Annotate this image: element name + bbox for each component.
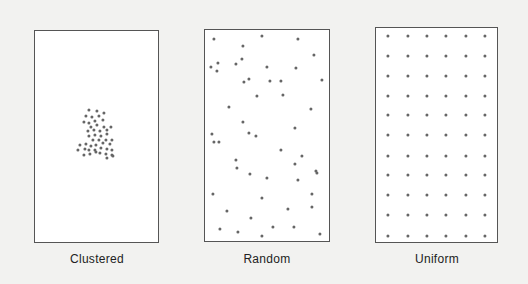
panel-clustered	[34, 30, 159, 243]
panel-uniform	[375, 27, 498, 243]
panel-random	[204, 29, 330, 242]
panel-label-random: Random	[207, 252, 327, 266]
panel-label-uniform: Uniform	[377, 252, 497, 266]
panel-label-clustered: Clustered	[37, 252, 157, 266]
